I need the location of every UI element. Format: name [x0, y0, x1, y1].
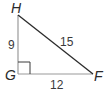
vertex-label-g: G [5, 67, 16, 83]
side-label-gf: 12 [50, 78, 64, 92]
side-hf [18, 15, 93, 74]
side-label-hf: 15 [60, 35, 74, 49]
vertex-label-f: F [94, 68, 104, 84]
vertex-label-h: H [11, 0, 22, 16]
right-angle-marker [18, 62, 30, 74]
triangle-diagram: H G F 9 15 12 [0, 0, 107, 100]
side-label-hg: 9 [8, 38, 15, 52]
